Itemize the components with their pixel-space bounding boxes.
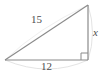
right-angle-marker (81, 53, 88, 60)
label-vertical-leg: x (93, 27, 98, 38)
triangle-side-hypotenuse (5, 5, 88, 60)
triangle-figure: 15 12 x (0, 0, 106, 76)
decorative-arc-right (88, 5, 93, 60)
label-hypotenuse: 15 (31, 14, 42, 25)
label-base: 12 (41, 61, 52, 72)
triangle-diagram-svg (0, 0, 106, 76)
